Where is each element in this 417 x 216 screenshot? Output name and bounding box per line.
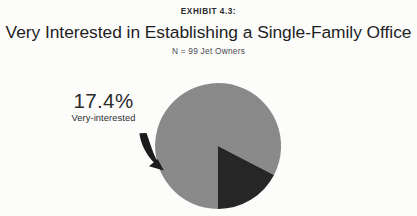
pie-chart (0, 0, 417, 216)
exhibit-figure: EXHIBIT 4.3: Very Interested in Establis… (0, 0, 417, 216)
